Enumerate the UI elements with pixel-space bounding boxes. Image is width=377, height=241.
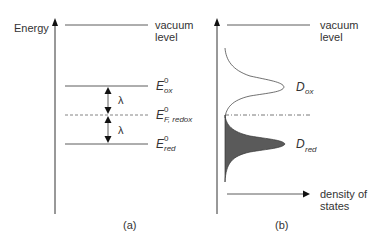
vacuum-label-line2: level bbox=[155, 31, 178, 43]
label-e-ox: E 0 ox bbox=[156, 76, 173, 95]
lambda-upper: λ bbox=[118, 94, 124, 106]
d-red-distribution bbox=[225, 115, 285, 182]
label-d-red: D red bbox=[296, 137, 317, 154]
svg-text:red: red bbox=[164, 144, 176, 153]
arrow-head-icon bbox=[105, 107, 112, 114]
arrow-head-icon bbox=[105, 116, 112, 123]
svg-text:D: D bbox=[296, 137, 305, 151]
label-d-ox: D ox bbox=[296, 80, 314, 96]
vacuum-label-b-line1: vacuum bbox=[320, 19, 359, 31]
energy-axis-label: Energy bbox=[14, 22, 49, 34]
svg-text:0: 0 bbox=[164, 134, 169, 143]
svg-text:D: D bbox=[296, 80, 305, 94]
svg-text:red: red bbox=[305, 145, 317, 154]
panel-a: Energy vacuum level λ λ E 0 ox E 0 F, re… bbox=[14, 19, 194, 231]
svg-text:0: 0 bbox=[164, 105, 169, 114]
arrow-head-icon bbox=[105, 136, 112, 143]
label-e-fermi-redox: E 0 F, redox bbox=[156, 105, 193, 124]
caption-b: (b) bbox=[275, 219, 288, 231]
energy-diagram: Energy vacuum level λ λ E 0 ox E 0 F, re… bbox=[0, 0, 377, 241]
arrow-head-icon bbox=[105, 87, 112, 94]
density-label-line2: states bbox=[320, 200, 350, 212]
svg-text:F, redox: F, redox bbox=[164, 115, 193, 124]
d-ox-distribution bbox=[225, 48, 284, 118]
arrow-head-icon bbox=[303, 191, 310, 198]
vacuum-label-line1: vacuum bbox=[155, 19, 194, 31]
density-label-line1: density of bbox=[320, 188, 368, 200]
caption-a: (a) bbox=[123, 219, 136, 231]
lambda-lower: λ bbox=[118, 124, 124, 136]
vacuum-label-b-line2: level bbox=[320, 31, 343, 43]
svg-text:ox: ox bbox=[305, 87, 314, 96]
svg-text:ox: ox bbox=[164, 86, 173, 95]
svg-text:0: 0 bbox=[164, 76, 169, 85]
panel-b: vacuum level D ox D red density of state… bbox=[217, 19, 368, 231]
label-e-red: E 0 red bbox=[156, 134, 176, 153]
